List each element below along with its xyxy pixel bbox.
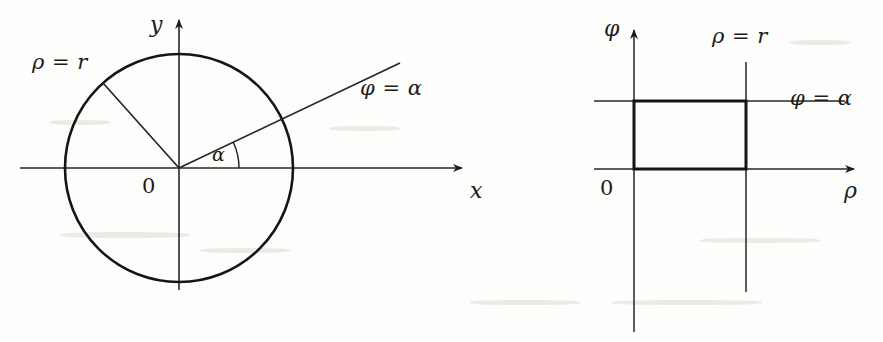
label-axis-phi: φ [604,18,619,40]
label-axis-y: y [150,14,162,36]
label-origin-right: 0 [600,178,613,199]
radius-segment [103,83,179,168]
label-line-phi-equals-alpha: φ = α [790,88,852,109]
label-axis-x: x [470,180,482,202]
figure-drawing [0,0,883,342]
label-circle-rho-equals-r: ρ = r [32,52,88,73]
label-origin-left: 0 [142,176,155,197]
figure-container: ρ = r φ = α α 0 x y ρ = r φ = α 0 ρ φ [0,0,883,342]
label-angle-alpha: α [212,145,225,164]
label-ray-phi-equals-alpha: φ = α [360,78,422,99]
label-line-rho-equals-r: ρ = r [712,26,768,47]
image-rectangle [634,101,746,169]
angle-arc-alpha [233,142,239,168]
label-axis-rho: ρ [844,180,857,202]
panel-parameter [594,30,854,332]
